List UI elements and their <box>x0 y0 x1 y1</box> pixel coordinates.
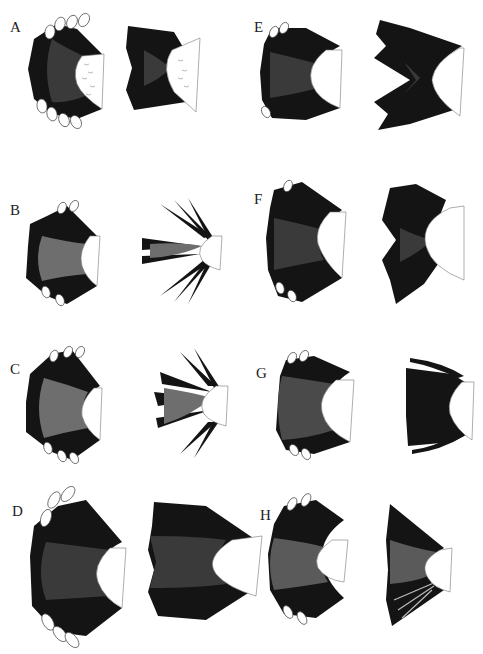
feather-illustration-b1 <box>22 196 107 306</box>
panel-label-g: G <box>256 366 267 381</box>
panel-label-c: C <box>10 362 20 377</box>
panel-label-d: D <box>12 504 23 519</box>
feather-illustration-f2 <box>376 180 466 310</box>
feather-illustration-a2 <box>124 20 204 115</box>
panel-label-b: B <box>10 203 20 218</box>
panel-label-a: A <box>10 20 21 35</box>
feather-illustration-b2 <box>140 196 225 306</box>
feather-illustration-e2 <box>370 18 465 133</box>
feather-illustration-h1 <box>266 494 356 624</box>
feather-illustration-c2 <box>150 342 230 462</box>
feather-illustration-g1 <box>274 350 359 460</box>
feather-illustration-f1 <box>262 178 347 308</box>
feather-illustration-d1 <box>26 486 126 646</box>
feather-illustration-a1 <box>22 14 112 124</box>
feather-illustration-e1 <box>256 22 346 122</box>
feather-illustration-c1 <box>22 342 107 462</box>
feather-illustration-d2 <box>146 496 266 626</box>
feather-illustration-g2 <box>402 356 477 456</box>
feather-illustration-h2 <box>384 500 454 630</box>
